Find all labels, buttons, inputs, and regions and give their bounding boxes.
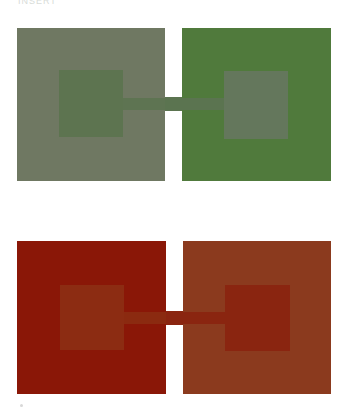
footnote-dot [20,404,23,407]
page-caption: INSERT [18,0,57,6]
bottom-pair-left-inner [60,285,124,350]
top-pair-left-inner [59,70,123,137]
top-pair-bridge-right-inner [182,98,224,110]
top-pair-bridge-outer [165,97,182,111]
bottom-pair-right-inner [225,285,290,351]
bottom-pair-bridge-right-inner [183,312,225,324]
bottom-pair-bridge-outer [166,311,183,325]
bottom-pair-bridge-left-inner [124,312,166,324]
top-pair-bridge-left-inner [123,98,165,110]
top-pair-right-inner [224,71,288,139]
